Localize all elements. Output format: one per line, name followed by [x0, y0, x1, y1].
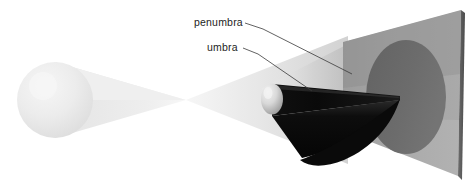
label-penumbra: penumbra	[194, 16, 243, 28]
label-umbra: umbra	[207, 41, 238, 53]
light-source-sphere	[17, 62, 93, 138]
occluding-sphere	[261, 84, 283, 115]
diagram-canvas: penumbra umbra	[0, 0, 474, 186]
labels: penumbra umbra	[194, 16, 243, 53]
shadow-diagram: penumbra umbra	[0, 0, 474, 186]
umbra-cone	[272, 84, 400, 166]
